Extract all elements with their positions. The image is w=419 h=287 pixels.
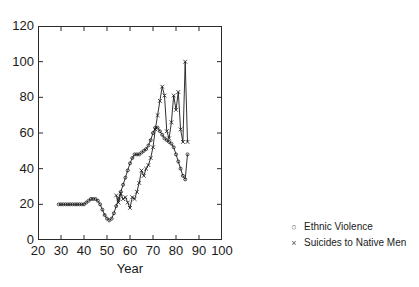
y-tick-label: 60: [2, 126, 34, 139]
legend-item-suicides-to-native-men: × Suicides to Native Men: [286, 235, 416, 251]
x-axis-label: Year: [38, 261, 222, 276]
plot-data-layer: [38, 26, 222, 240]
legend-label-suicides-to-native-men: Suicides to Native Men: [302, 235, 406, 251]
y-tick-label: 20: [2, 197, 34, 210]
x-marker-icon: ×: [286, 235, 302, 251]
y-tick-label: 40: [2, 162, 34, 175]
legend-label-ethnic-violence: Ethnic Violence: [302, 219, 373, 235]
series-suicides-to-native-men: [114, 60, 189, 210]
y-tick-label: 80: [2, 90, 34, 103]
data-series-layer: [57, 60, 189, 222]
chart-figure: 120100806040200 2030405060708090100 Year…: [0, 0, 419, 287]
x-axis-tick-labels: 2030405060708090100: [0, 243, 300, 263]
series-ethnic-violence: [57, 126, 189, 222]
chart-legend: ○ Ethnic Violence × Suicides to Native M…: [286, 219, 416, 251]
y-tick-label: 100: [2, 55, 34, 68]
circle-marker-icon: ○: [286, 219, 302, 235]
x-tick-label: 100: [202, 243, 242, 258]
y-tick-label: 120: [2, 19, 34, 32]
legend-item-ethnic-violence: ○ Ethnic Violence: [286, 219, 416, 235]
